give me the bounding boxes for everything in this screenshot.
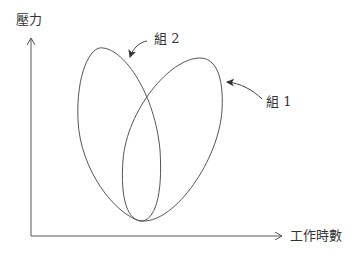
group-1-pointer-arrow (227, 82, 262, 99)
y-axis-label: 壓力 (16, 13, 42, 26)
group-1-ellipse (122, 58, 222, 221)
group-2-pointer-arrow (130, 41, 147, 57)
group-2-label: 組 2 (154, 32, 179, 45)
group-2-ellipse (78, 48, 161, 221)
x-axis-label: 工作時數 (290, 229, 342, 242)
group-1-label: 組 1 (266, 95, 291, 108)
diagram-canvas (0, 0, 359, 255)
